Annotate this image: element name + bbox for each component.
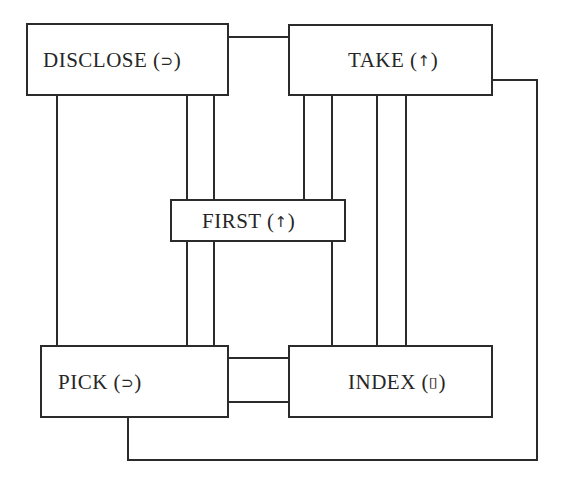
node-first: FIRST (↑) [170, 199, 346, 242]
edge-take-pick-left [127, 416, 129, 461]
edge-take-index-a [376, 94, 378, 346]
node-first-label: FIRST (↑) [202, 208, 295, 233]
node-first-name: FIRST [202, 208, 261, 232]
disclose-symbol-icon: ⊃ [161, 51, 174, 69]
edge-disclose-pick [56, 94, 58, 346]
node-pick-label: PICK (⊃) [58, 369, 142, 394]
node-pick-name: PICK [58, 369, 108, 393]
node-index: INDEX (⌷) [288, 345, 493, 418]
edge-take-pick-top [491, 79, 538, 81]
node-index-name: INDEX [348, 369, 416, 393]
edge-pick-index-b [227, 401, 289, 403]
edge-disclose-take [227, 36, 289, 38]
diagram-canvas: DISCLOSE (⊃) TAKE (↑) FIRST (↑) PICK (⊃)… [0, 0, 565, 484]
edge-take-first-a [303, 94, 305, 200]
node-disclose: DISCLOSE (⊃) [26, 23, 229, 96]
index-quad-icon: ⌷ [429, 373, 439, 391]
node-disclose-label: DISCLOSE (⊃) [43, 47, 181, 72]
node-take-name: TAKE [348, 48, 404, 72]
node-take: TAKE (↑) [288, 24, 493, 96]
edge-take-pick-bottom [127, 459, 538, 461]
node-pick: PICK (⊃) [40, 345, 229, 418]
take-arrow-up-icon: ↑ [418, 52, 431, 70]
edge-take-index-b [405, 94, 407, 346]
edge-take-pick-right [536, 79, 538, 461]
node-take-label: TAKE (↑) [348, 48, 438, 73]
first-arrow-up-icon: ↑ [275, 212, 288, 230]
edge-pick-index-a [227, 357, 289, 359]
pick-symbol-icon: ⊃ [121, 373, 134, 391]
node-index-label: INDEX (⌷) [348, 369, 446, 394]
node-disclose-name: DISCLOSE [43, 47, 147, 71]
